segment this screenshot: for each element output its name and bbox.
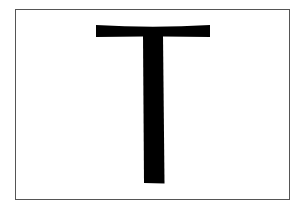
letter-t-glyph <box>0 0 305 209</box>
letter-t-stem <box>143 35 165 184</box>
